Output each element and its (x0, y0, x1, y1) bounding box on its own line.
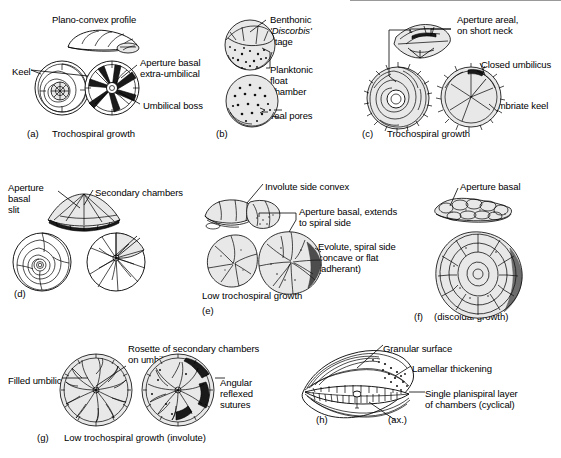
panel-c-umbilical-specimen (364, 62, 432, 133)
panel-d-edge-view (48, 194, 120, 231)
panel-f-edge-view (435, 198, 512, 222)
panel-d-drawing (0, 170, 195, 310)
panel-g-right-disc (142, 354, 214, 426)
panel-f-discoidal-view (435, 229, 522, 319)
panel-c-spiral-specimen (436, 63, 505, 132)
panel-a-drawing (0, 0, 200, 150)
foraminifera-morphology-figure: Plano-convex profile Keel Aperture basal… (0, 0, 561, 458)
benthonic-discorbis-drawing (225, 20, 275, 70)
panel-e-involute-view (207, 235, 257, 287)
panel-h-axial-section (302, 351, 413, 420)
panel-e-drawing (195, 170, 395, 310)
panel-d-umbilical-disc (87, 233, 145, 291)
panel-b-drawing (200, 0, 350, 150)
panel-f-tag: (f) (414, 311, 423, 323)
planktonic-float-chamber-drawing (226, 75, 282, 127)
aperture-basal-extends-leader-2 (289, 213, 296, 232)
panel-h-drawing (285, 330, 561, 458)
panel-d-spiral-disc (13, 233, 71, 291)
panel-f-drawing (410, 170, 561, 310)
umbilical-boss-drawing (107, 83, 118, 94)
panel-g-left-disc (60, 354, 132, 426)
panel-a-spiral-view (31, 61, 89, 115)
panel-e-evolute-view (259, 232, 321, 294)
panel-c-drawing (350, 0, 561, 150)
panel-c-edge-view (394, 24, 450, 58)
plano-convex-profile-drawing (68, 30, 139, 53)
panel-e-edge-view (205, 200, 280, 229)
panel-g-drawing (0, 330, 280, 458)
panel-a-umbilical-view (85, 61, 139, 115)
